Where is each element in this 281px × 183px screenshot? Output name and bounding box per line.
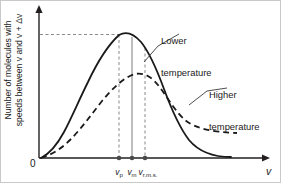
y-axis-label-line-2: speeds between v and v + Δv	[14, 7, 25, 133]
vrms-subscript: r.m.s.	[143, 172, 158, 178]
y-axis-label: Number of molecules with speeds between …	[3, 7, 37, 133]
higher-temperature-annotation: Higher temperature	[209, 69, 260, 153]
origin-label: 0	[30, 158, 36, 169]
maxwell-boltzmann-speed-distribution-figure: Number of molecules with speeds between …	[0, 0, 281, 183]
lower-temperature-annotation-line-1: Lower	[161, 36, 212, 47]
vm-subscript: m	[132, 172, 137, 178]
vrms-tick-label: vr.m.s.	[139, 167, 158, 177]
vm-tick-dot	[130, 156, 135, 161]
vp-tick-dot	[117, 156, 122, 161]
vp-subscript: p	[119, 172, 122, 178]
higher-temperature-annotation-line-2: temperature	[209, 122, 260, 133]
vm-tick-label: vm	[127, 167, 136, 177]
x-axis-arrow-icon	[262, 154, 270, 161]
x-axis-label: v	[266, 166, 271, 178]
vp-tick-label: vp	[115, 167, 123, 177]
lower-temperature-annotation: Lower temperature	[161, 15, 212, 99]
vrms-tick-dot	[143, 156, 148, 161]
y-axis-label-line-1: Number of molecules with	[3, 7, 14, 133]
higher-temperature-annotation-line-1: Higher	[209, 90, 260, 101]
lower-temperature-annotation-line-2: temperature	[161, 68, 212, 79]
